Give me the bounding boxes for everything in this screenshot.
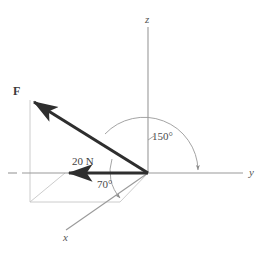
- diagram-canvas: [0, 0, 267, 257]
- construction-lines: [30, 100, 148, 202]
- angle-150-label: 150°: [152, 131, 173, 142]
- y-axis-label: y: [249, 167, 254, 178]
- construction-base-diagonal: [120, 173, 148, 202]
- coordinate-axes: [8, 27, 243, 230]
- angle-arc-150-path: [105, 117, 198, 170]
- force-vector-figure: z y x F 20 N 150° 70°: [0, 0, 267, 257]
- force-vector-label: F: [13, 85, 20, 97]
- projection-magnitude-label: 20 N: [72, 156, 94, 167]
- x-axis-label: x: [63, 232, 68, 243]
- angle-70-label: 70°: [97, 179, 112, 190]
- construction-corner-to-projection: [30, 173, 65, 202]
- z-axis-label: z: [145, 14, 149, 25]
- angle-arc-150: [105, 117, 198, 170]
